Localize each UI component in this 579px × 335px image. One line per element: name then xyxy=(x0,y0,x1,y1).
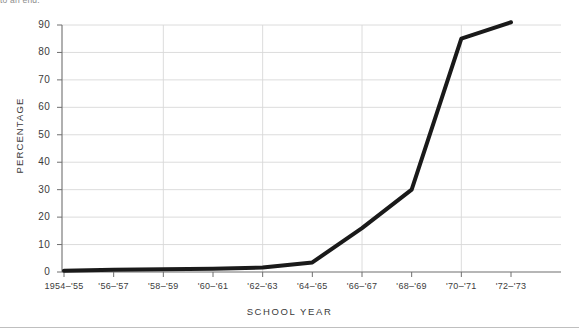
y-tick-label: 70 xyxy=(24,74,50,85)
y-tick-label: 60 xyxy=(24,101,50,112)
gridlines-group xyxy=(62,25,561,245)
y-tick-label: 10 xyxy=(24,239,50,250)
y-tick-label: 50 xyxy=(24,129,50,140)
data-series-line xyxy=(64,22,511,270)
vertical-gridlines-group xyxy=(163,25,461,272)
y-tick-label: 80 xyxy=(24,46,50,57)
y-tick-label: 90 xyxy=(24,19,50,30)
y-tick-label: 0 xyxy=(24,266,50,277)
axis-ticks-group xyxy=(57,25,511,277)
y-tick-label: 40 xyxy=(24,156,50,167)
y-tick-label: 20 xyxy=(24,211,50,222)
x-tick-label: '72–'73 xyxy=(476,281,546,291)
bottom-divider-rule xyxy=(0,327,579,328)
line-chart-figure: PERCENTAGE SCHOOL YEAR 01020304050607080… xyxy=(0,0,579,335)
y-tick-label: 30 xyxy=(24,184,50,195)
